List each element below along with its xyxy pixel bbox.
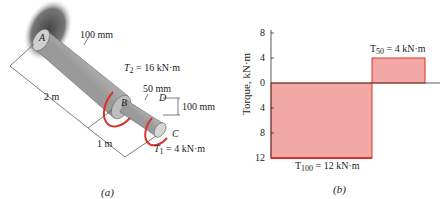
torque-label-t1: T1 = 4 kN·m <box>154 144 205 154</box>
figure-b-torque-chart: Torque, kN·m 8 4 0 4 8 12 T50 = 4 kN·m T… <box>225 0 440 199</box>
diameter-label-bc: 50 mm <box>143 84 171 94</box>
y-tick: 12 <box>249 153 265 163</box>
point-label-b: B <box>121 98 127 108</box>
length-label-bc: 1 m <box>97 139 112 149</box>
y-tick: 4 <box>249 53 265 63</box>
point-label-a: A <box>39 33 45 43</box>
diameter-label-ab: 100 mm <box>80 30 113 40</box>
y-tick: 0 <box>249 78 265 88</box>
annotation-t100: T100 = 12 kN·m <box>295 161 360 171</box>
torque-label-t2: T2 = 16 kN·m <box>124 63 180 73</box>
y-tick: 4 <box>249 103 265 113</box>
point-label-c: C <box>172 129 179 139</box>
point-label-d: D <box>159 93 166 103</box>
caption-a: (a) <box>101 186 114 198</box>
y-tick: 8 <box>249 128 265 138</box>
figure-a-shaft-diagram: A B C D 100 mm 50 mm 100 mm 2 m 1 m T2 =… <box>0 0 225 199</box>
length-label-ab: 2 m <box>44 92 59 102</box>
diameter-label-end: 100 mm <box>182 102 215 112</box>
annotation-t50: T50 = 4 kN·m <box>370 44 426 54</box>
y-tick: 8 <box>249 28 265 38</box>
torque-bar-ab <box>271 83 372 158</box>
torque-bar-bc <box>372 58 425 83</box>
caption-b: (b) <box>333 183 346 195</box>
